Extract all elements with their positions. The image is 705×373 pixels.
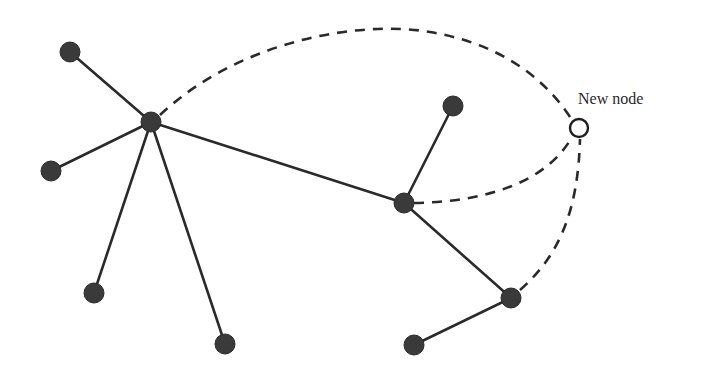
diagram-svg: New node bbox=[0, 0, 705, 373]
node-hub-right bbox=[394, 193, 414, 213]
new-node-label: New node bbox=[578, 90, 643, 107]
node-hub-left bbox=[141, 112, 161, 132]
edge-hub-lower-right-leaf-bottom-right bbox=[414, 298, 511, 345]
edge-hub-left-hub-right bbox=[151, 122, 404, 203]
node-leaf-top-right bbox=[443, 96, 463, 116]
edge-hub-left-leaf-bottom-left bbox=[94, 122, 151, 293]
node-leaf-left bbox=[41, 161, 61, 181]
dashed-edge-hub-right-to-new-node bbox=[414, 137, 572, 203]
edge-hub-right-leaf-top-right bbox=[404, 106, 453, 203]
node-leaf-bottom-right bbox=[404, 335, 424, 355]
dashed-edge-hub-lower-right-to-new-node bbox=[520, 139, 580, 290]
node-new bbox=[570, 119, 588, 137]
node-leaf-top-left bbox=[60, 42, 80, 62]
edge-hub-left-leaf-bottom-mid bbox=[151, 122, 225, 344]
node-hub-lower-right bbox=[501, 288, 521, 308]
dashed-edge-hub-left-to-new-node bbox=[160, 29, 572, 120]
node-leaf-bottom-mid bbox=[215, 334, 235, 354]
edge-hub-right-hub-lower-right bbox=[404, 203, 511, 298]
node-leaf-bottom-left bbox=[84, 283, 104, 303]
network-diagram: New node bbox=[0, 0, 705, 373]
edge-hub-left-leaf-top-left bbox=[70, 52, 151, 122]
